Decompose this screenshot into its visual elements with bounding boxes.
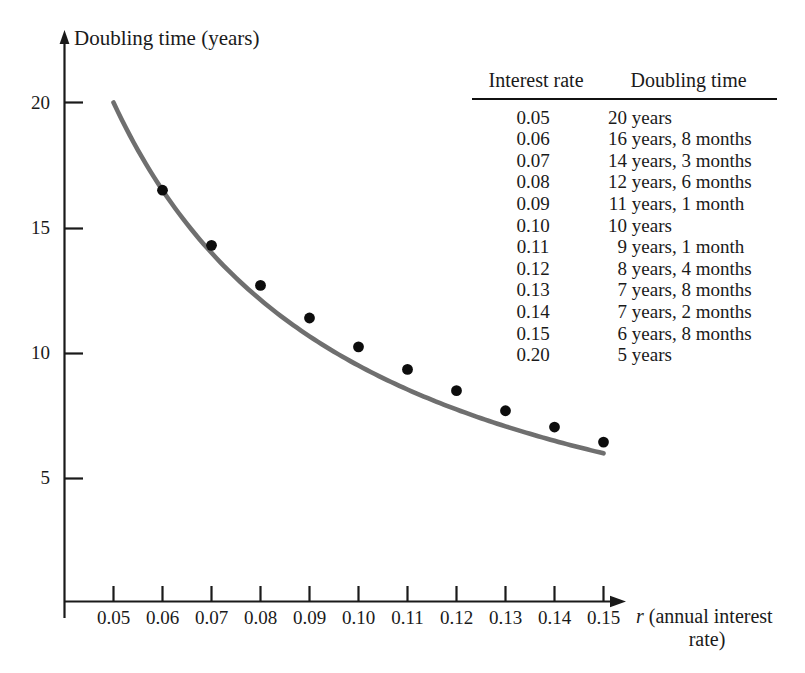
doubling-time-value: 14	[608, 150, 627, 172]
table-cell-doubling-time: 9 years, 1 month	[600, 236, 777, 258]
table-cell-doubling-time: 12 years, 6 months	[600, 171, 777, 193]
data-point-marker	[549, 422, 560, 433]
doubling-time-table: Interest rate Doubling time 0.0520 years…	[472, 70, 777, 366]
table-row: 0.147 years, 2 months	[472, 301, 777, 323]
x-axis-tick-label: 0.15	[574, 608, 634, 627]
table-cell-doubling-time: 11 years, 1 month	[600, 193, 777, 215]
table-cell-doubling-time: 7 years, 2 months	[600, 301, 777, 323]
table-cell-doubling-time: 7 years, 8 months	[600, 279, 777, 301]
table-row: 0.137 years, 8 months	[472, 279, 777, 301]
doubling-time-value: 7	[608, 279, 627, 301]
table-row: 0.0616 years, 8 months	[472, 128, 777, 150]
table-cell-doubling-time: 14 years, 3 months	[600, 150, 777, 172]
y-axis-tick-label: 15	[6, 218, 50, 237]
table-cell-doubling-time: 16 years, 8 months	[600, 128, 777, 150]
doubling-time-value: 12	[608, 171, 627, 193]
y-axis	[60, 30, 70, 618]
table-row: 0.1010 years	[472, 215, 777, 237]
x-axis-ticks	[114, 586, 604, 602]
doubling-time-value: 9	[608, 236, 627, 258]
table-header-doubling-time: Doubling time	[600, 70, 777, 99]
doubling-time-value: 20	[608, 107, 627, 129]
table-cell-interest-rate: 0.08	[472, 171, 600, 193]
table-row: 0.205 years	[472, 344, 777, 366]
doubling-time-value: 11	[608, 193, 627, 215]
y-axis-title: Doubling time (years)	[74, 26, 259, 50]
table-cell-interest-rate: 0.06	[472, 128, 600, 150]
x-axis-variable: r	[636, 605, 644, 627]
table-cell-doubling-time: 20 years	[600, 99, 777, 129]
doubling-time-figure: Doubling time (years) r (annual interest…	[0, 0, 805, 673]
data-point-marker	[255, 280, 266, 291]
table-row: 0.0714 years, 3 months	[472, 150, 777, 172]
data-point-marker	[500, 405, 511, 416]
table-cell-doubling-time: 10 years	[600, 215, 777, 237]
doubling-time-value: 7	[608, 301, 627, 323]
data-point-marker	[157, 185, 168, 196]
table-row: 0.128 years, 4 months	[472, 258, 777, 280]
table-cell-interest-rate: 0.15	[472, 323, 600, 345]
x-axis-title-line1: (annual interest	[649, 605, 773, 627]
table-cell-doubling-time: 8 years, 4 months	[600, 258, 777, 280]
table-cell-interest-rate: 0.20	[472, 344, 600, 366]
table-row: 0.156 years, 8 months	[472, 323, 777, 345]
table-row: 0.0812 years, 6 months	[472, 171, 777, 193]
table-row: 0.119 years, 1 month	[472, 236, 777, 258]
table-cell-doubling-time: 5 years	[600, 344, 777, 366]
table-cell-interest-rate: 0.10	[472, 215, 600, 237]
y-axis-tick-label: 10	[6, 343, 50, 362]
y-axis-arrow-icon	[60, 30, 70, 44]
data-point-marker	[304, 313, 315, 324]
table-cell-interest-rate: 0.05	[472, 99, 600, 129]
table-cell-interest-rate: 0.07	[472, 150, 600, 172]
doubling-time-value: 6	[608, 323, 627, 345]
doubling-time-value: 16	[608, 128, 627, 150]
data-point-marker	[598, 437, 609, 448]
x-axis-title: r (annual interest rate)	[636, 605, 796, 651]
table-header-interest-rate: Interest rate	[472, 70, 600, 99]
table-header-row: Interest rate Doubling time	[472, 70, 777, 99]
table-row: 0.0520 years	[472, 99, 777, 129]
x-axis	[65, 596, 627, 607]
table-cell-interest-rate: 0.11	[472, 236, 600, 258]
data-point-marker	[451, 385, 462, 396]
table-cell-interest-rate: 0.13	[472, 279, 600, 301]
y-axis-ticks	[65, 103, 84, 479]
x-axis-title-line2: rate)	[636, 628, 796, 651]
data-point-marker	[402, 364, 413, 375]
doubling-time-value: 8	[608, 258, 627, 280]
table-cell-doubling-time: 6 years, 8 months	[600, 323, 777, 345]
data-point-marker	[353, 341, 364, 352]
y-axis-tick-label: 20	[6, 93, 50, 112]
x-axis-arrow-icon	[610, 596, 626, 607]
y-axis-tick-label: 5	[6, 468, 50, 487]
table-cell-interest-rate: 0.09	[472, 193, 600, 215]
doubling-time-value: 5	[608, 344, 627, 366]
table-cell-interest-rate: 0.14	[472, 301, 600, 323]
data-point-marker	[206, 240, 217, 251]
table-row: 0.0911 years, 1 month	[472, 193, 777, 215]
doubling-time-value: 10	[608, 215, 627, 237]
table-cell-interest-rate: 0.12	[472, 258, 600, 280]
